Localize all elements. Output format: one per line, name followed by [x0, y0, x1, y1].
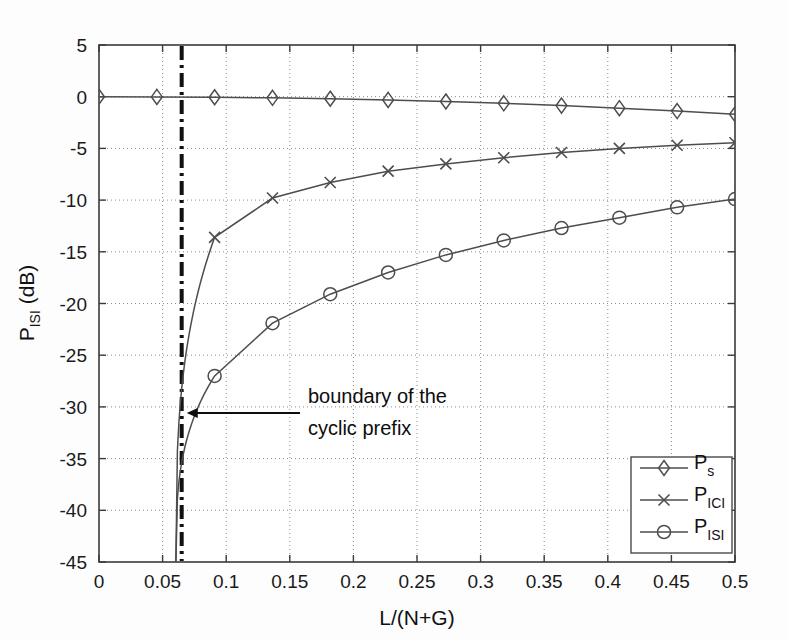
x-tick-label: 0.35	[526, 571, 563, 592]
y-axis-title-unit: (dB)	[15, 265, 38, 311]
y-tick-label: -15	[60, 242, 87, 263]
x-tick-label: 0	[94, 571, 105, 592]
annotation-text-line2: cyclic prefix	[308, 417, 411, 439]
legend-label-base: P	[694, 483, 707, 505]
x-tick-label: 0.3	[467, 571, 493, 592]
x-tick-label: 0.15	[271, 571, 308, 592]
y-tick-label: 0	[76, 87, 87, 108]
x-tick-label: 0.1	[213, 571, 239, 592]
legend-label-base: P	[694, 451, 707, 473]
y-tick-label: -25	[60, 345, 87, 366]
y-axis-title-subscript: ISI	[27, 310, 43, 327]
y-tick-label: -20	[60, 294, 87, 315]
x-tick-label: 0.5	[722, 571, 748, 592]
x-tick-label: 0.45	[653, 571, 690, 592]
y-tick-label: -45	[60, 552, 87, 573]
x-tick-label: 0.2	[340, 571, 366, 592]
x-tick-label: 0.05	[144, 571, 181, 592]
y-tick-label: 5	[76, 35, 87, 56]
plot-svg: 00.050.10.150.20.250.30.350.40.450.5 50-…	[0, 0, 788, 641]
y-tick-label: -35	[60, 449, 87, 470]
y-tick-label: -10	[60, 190, 87, 211]
legend-label-subscript: s	[707, 463, 714, 479]
y-tick-label: -30	[60, 397, 87, 418]
legend-label-subscript: ISI	[707, 527, 724, 543]
y-tick-label: -40	[60, 500, 87, 521]
annotation-text-line1: boundary of the	[308, 385, 447, 407]
legend-label-base: P	[694, 515, 707, 537]
y-tick-label: -5	[70, 138, 87, 159]
y-axis-title-base: P	[15, 327, 38, 341]
legend-label-subscript: ICI	[707, 495, 725, 511]
x-tick-label: 0.25	[399, 571, 436, 592]
x-axis-title: L/(N+G)	[379, 606, 454, 629]
x-tick-label: 0.4	[595, 571, 622, 592]
legend[interactable]: PsPICIPISI	[631, 451, 732, 553]
chart-figure: 00.050.10.150.20.250.30.350.40.450.5 50-…	[0, 0, 788, 641]
